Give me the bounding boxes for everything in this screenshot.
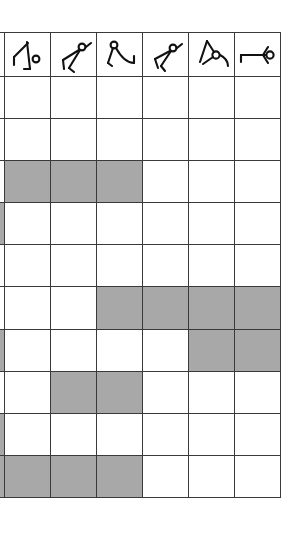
matrix-cell-6-2-5[interactable]: [5, 329, 51, 371]
matrix-cell-4-1-2[interactable]: [97, 76, 143, 118]
matrix-cell-2-1-4[interactable]: [189, 160, 235, 202]
matrix-row: [51, 32, 97, 497]
matrix-cell-6-1-4[interactable]: [5, 160, 51, 202]
matrix-cell-6-3-4[interactable]: [5, 371, 51, 413]
matrix-row: [5, 32, 51, 497]
matrix-cell-4-3-4[interactable]: [97, 371, 143, 413]
matrix-cell-5-4-5[interactable]: [51, 455, 97, 497]
matrix-cell-5-2-4[interactable]: [51, 286, 97, 328]
matrix-cell-3-2-3[interactable]: [143, 244, 189, 286]
matrix-cell-3-1-3[interactable]: [143, 118, 189, 160]
matrix-cell-1-1-2[interactable]: [235, 76, 281, 118]
matrix-cell-5-3-5[interactable]: [51, 413, 97, 455]
matrix-cell-7-1-4[interactable]: [0, 160, 5, 202]
matrix-cell-4-4-5[interactable]: [97, 455, 143, 497]
matrix-cell-7-1-3[interactable]: [0, 118, 5, 160]
matrix-cell-3-1-5[interactable]: [143, 202, 189, 244]
stick-figure-leaning-hook-icon: [97, 32, 143, 76]
rotated-figure-wrapper: Form Link 1 - 21 - 31 - 41 - 52 - 32 - 4…: [9, 32, 281, 526]
matrix-cell-7-3-5[interactable]: [0, 413, 5, 455]
matrix-cell-7-2-3[interactable]: [0, 244, 5, 286]
matrix-cell-5-2-5[interactable]: [51, 329, 97, 371]
matrix-cell-7-1-2[interactable]: [0, 76, 5, 118]
matrix-row: [143, 32, 189, 497]
matrix-row: [189, 32, 235, 497]
matrix-cell-7-4-5[interactable]: [0, 455, 5, 497]
matrix-cell-1-3-4[interactable]: [235, 371, 281, 413]
matrix-row: [0, 32, 5, 497]
matrix-cell-1-4-5[interactable]: [235, 455, 281, 497]
matrix-cell-1-1-3[interactable]: [235, 118, 281, 160]
matrix-cell-1-2-5[interactable]: [235, 329, 281, 371]
matrix-cell-3-1-2[interactable]: [143, 76, 189, 118]
matrix-cell-1-2-4[interactable]: [235, 286, 281, 328]
matrix-cell-3-2-4[interactable]: [143, 286, 189, 328]
matrix-cell-6-2-4[interactable]: [5, 286, 51, 328]
matrix-cell-5-1-4[interactable]: [51, 160, 97, 202]
stick-figure-bent-forward-icon: [189, 32, 235, 76]
matrix-cell-2-2-5[interactable]: [189, 329, 235, 371]
matrix-cell-4-3-5[interactable]: [97, 413, 143, 455]
matrix-cell-5-2-3[interactable]: [51, 244, 97, 286]
matrix-cell-4-1-5[interactable]: [97, 202, 143, 244]
matrix-cell-4-2-3[interactable]: [97, 244, 143, 286]
matrix-cell-6-1-5[interactable]: [5, 202, 51, 244]
matrix-cell-2-4-5[interactable]: [189, 455, 235, 497]
matrix-cell-2-1-3[interactable]: [189, 118, 235, 160]
matrix-cell-1-3-5[interactable]: [235, 413, 281, 455]
matrix-row: [235, 32, 281, 497]
matrix-cell-6-2-3[interactable]: [5, 244, 51, 286]
matrix-cell-2-1-2[interactable]: [189, 76, 235, 118]
form-link-matrix-table: Form Link 1 - 21 - 31 - 41 - 52 - 32 - 4…: [0, 32, 281, 498]
matrix-cell-2-2-4[interactable]: [189, 286, 235, 328]
matrix-cell-5-3-4[interactable]: [51, 371, 97, 413]
stick-figure-reclining-arm-icon: [5, 32, 51, 76]
matrix-cell-2-3-4[interactable]: [189, 371, 235, 413]
matrix-cell-4-1-3[interactable]: [97, 118, 143, 160]
matrix-cell-3-4-5[interactable]: [143, 455, 189, 497]
matrix-cell-2-3-5[interactable]: [189, 413, 235, 455]
stick-figure-crouched-splayed-icon: [51, 32, 97, 76]
matrix-cell-7-2-5[interactable]: [0, 329, 5, 371]
matrix-cell-1-1-5[interactable]: [235, 202, 281, 244]
matrix-cell-4-2-5[interactable]: [97, 329, 143, 371]
matrix-cell-5-1-5[interactable]: [51, 202, 97, 244]
matrix-cell-7-3-4[interactable]: [0, 371, 5, 413]
matrix-cell-3-3-4[interactable]: [143, 371, 189, 413]
matrix-cell-6-1-2[interactable]: [5, 76, 51, 118]
stick-figure-standing-arms-up-icon: [235, 32, 281, 76]
matrix-cell-6-4-5[interactable]: [5, 455, 51, 497]
matrix-cell-3-2-5[interactable]: [143, 329, 189, 371]
matrix-cell-4-1-4[interactable]: [97, 160, 143, 202]
matrix-cell-7-1-5[interactable]: [0, 202, 5, 244]
matrix-cell-2-2-3[interactable]: [189, 244, 235, 286]
matrix-cell-6-1-3[interactable]: [5, 118, 51, 160]
matrix-cell-7-2-4[interactable]: [0, 286, 5, 328]
matrix-cell-6-3-5[interactable]: [5, 413, 51, 455]
form-link-matrix-figure: Form Link 1 - 21 - 31 - 41 - 52 - 32 - 4…: [9, 32, 281, 526]
matrix-cell-1-2-3[interactable]: [235, 244, 281, 286]
matrix-cell-3-1-4[interactable]: [143, 160, 189, 202]
stick-figure-crouched-legs-out-icon: [143, 32, 189, 76]
matrix-row: [97, 32, 143, 497]
matrix-cell-4-2-4[interactable]: [97, 286, 143, 328]
matrix-cell-5-1-3[interactable]: [51, 118, 97, 160]
matrix-cell-2-1-5[interactable]: [189, 202, 235, 244]
matrix-cell-3-3-5[interactable]: [143, 413, 189, 455]
stick-figure-lying-flat-icon: [0, 32, 5, 76]
matrix-cell-1-1-4[interactable]: [235, 160, 281, 202]
matrix-cell-5-1-2[interactable]: [51, 76, 97, 118]
